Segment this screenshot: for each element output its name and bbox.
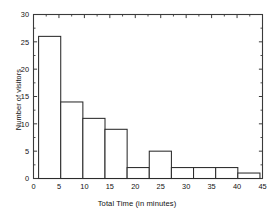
histogram-bar xyxy=(238,173,260,178)
x-tick-label: 30 xyxy=(182,182,190,191)
x-tick-label: 0 xyxy=(31,182,35,191)
histogram-bar xyxy=(216,168,238,179)
histogram-bar xyxy=(105,129,127,178)
histogram-bar xyxy=(39,36,61,178)
x-tick-label: 5 xyxy=(57,182,61,191)
histogram-bar xyxy=(149,151,171,178)
y-tick-label: 30 xyxy=(21,10,29,19)
x-tick-label: 35 xyxy=(207,182,215,191)
histogram-bar xyxy=(127,168,149,179)
histogram-bar xyxy=(194,168,216,179)
x-tick-label: 20 xyxy=(131,182,139,191)
histogram-bar xyxy=(61,102,83,179)
y-tick-label: 0 xyxy=(25,174,29,183)
x-tick-label: 40 xyxy=(233,182,241,191)
x-tick-label: 25 xyxy=(157,182,165,191)
x-tick-label: 10 xyxy=(80,182,88,191)
x-axis-title: Total Time (in minutes) xyxy=(0,199,274,208)
histogram-figure: 051015202530354045051015202530 Number of… xyxy=(0,0,274,222)
histogram-bar xyxy=(171,168,193,179)
x-tick-label: 15 xyxy=(106,182,114,191)
histogram-bars xyxy=(39,36,260,178)
x-tick-label: 45 xyxy=(258,182,266,191)
y-tick-label: 5 xyxy=(25,147,29,156)
histogram-bar xyxy=(83,118,105,178)
chart-canvas: 051015202530354045051015202530 xyxy=(0,0,274,222)
y-axis-title: Number of visitors xyxy=(14,35,23,165)
